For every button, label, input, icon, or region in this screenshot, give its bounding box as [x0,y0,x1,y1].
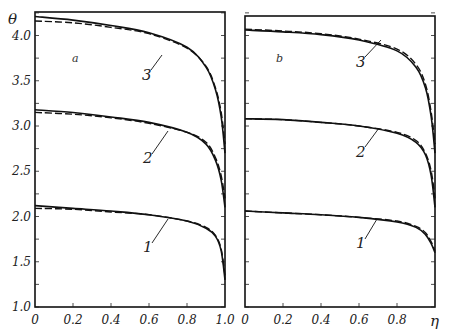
panel-a: 1.01.52.02.53.03.54.0 00.20.40.60.81.0 θ… [8,10,235,327]
curve-2-dashed [245,119,435,199]
x-tick-label: 0.2 [273,313,292,327]
x-tick-label: 0 [241,313,249,327]
curve-2-dashed [35,112,225,198]
eta-axis-label: η [430,312,439,330]
y-tick-label: 3.5 [12,74,31,88]
x-tick-label: 0.8 [177,313,196,327]
curve-label-2-a: 2 [142,149,153,167]
y-tick-label: 4.0 [11,29,31,43]
chart-canvas: 1.01.52.02.53.03.54.0 00.20.40.60.81.0 θ… [0,0,451,335]
y-tick-label: 1.0 [12,300,31,314]
curve-1-dashed [245,211,435,251]
panel-b: 00.20.40.60.8 b η [241,13,439,330]
y-tick-label: 1.5 [12,255,31,269]
curve-3-dashed [245,29,435,144]
y-tick-label: 3.0 [12,119,31,133]
x-tick-label: 1.0 [215,313,234,327]
curve-label-2-b: 2 [355,143,366,161]
x-tick-label: 0.4 [101,313,120,327]
curve-2-solid [245,119,435,208]
curve-3-dashed [35,21,225,144]
theta-axis-label: θ [8,10,17,28]
curve-label-1-a: 1 [143,238,153,256]
curve-1-solid [245,211,435,253]
panel-a-frame [35,12,225,307]
curve-label-3-a: 3 [142,66,152,84]
curve-2-solid [35,110,225,208]
panel-a-curves [35,16,225,279]
curve-1-dashed [35,208,225,275]
x-tick-label: 0 [31,313,39,327]
y-tick-label: 2.0 [11,210,31,224]
x-tick-label: 0.2 [63,313,82,327]
curve-label-3-b: 3 [356,53,366,71]
curve-1-solid [35,206,225,280]
curve-3-solid [35,16,225,153]
panel-b-label: b [276,52,283,65]
curve-label-1-b: 1 [356,234,366,252]
x-tick-label: 0.4 [311,313,330,327]
panel-a-label: a [72,52,79,65]
x-tick-label: 0.6 [349,313,368,327]
x-tick-label: 0.8 [387,313,406,327]
y-tick-label: 2.5 [11,164,31,178]
panel-b-curves [245,29,435,253]
x-tick-label: 0.6 [139,313,158,327]
panel-a-y-ticks: 1.01.52.02.53.03.54.0 [11,13,225,314]
panel-b-frame [245,16,435,307]
curve-labels: 3 2 1 3 2 1 [142,40,381,256]
